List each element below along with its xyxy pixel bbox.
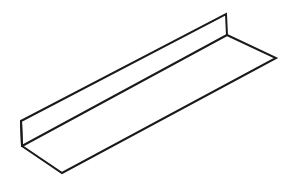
l-angle-figure	[0, 0, 288, 190]
drawing-canvas	[0, 0, 288, 190]
back-left-end-edge	[21, 121, 22, 146]
